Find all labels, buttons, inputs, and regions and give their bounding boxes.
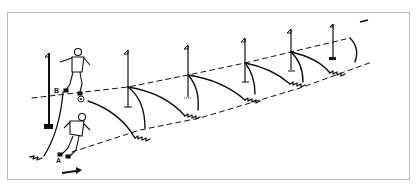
drill-illustration: B A <box>0 0 419 188</box>
pole-4 <box>241 38 249 82</box>
pole-5 <box>287 29 295 71</box>
direction-left-arrow-icon <box>360 20 368 22</box>
pole-3 <box>184 45 192 98</box>
bottom-dashed-line <box>72 62 372 152</box>
label-a: A <box>56 157 61 164</box>
soccer-ball-icon <box>78 96 84 102</box>
direction-right-arrow-icon <box>62 167 82 174</box>
pole-1 <box>44 53 53 129</box>
player-a-figure <box>58 114 90 159</box>
pole-2 <box>124 50 132 107</box>
label-b: B <box>54 87 59 94</box>
player-b-figure <box>60 49 90 96</box>
